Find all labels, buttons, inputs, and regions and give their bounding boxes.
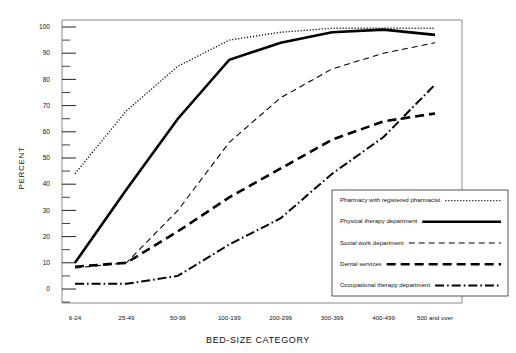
x-tick-label: 300-399 [321,314,344,321]
x-tick-label: 6-24 [69,314,82,321]
x-tick-label: 100-199 [218,314,241,321]
y-tick-label: 10 [43,259,51,266]
legend-label-1: Pharmacy with registered pharmacist [340,196,441,203]
y-tick-label: 90 [43,49,51,56]
chart-legend: Pharmacy with registered pharmacistPhysi… [332,190,508,296]
y-tick-label: 20 [43,233,51,240]
legend-label-4: Dental services [340,260,382,267]
legend-label-2: Physical therapy department [340,217,418,224]
x-tick-label: 50-99 [170,314,186,321]
line-chart-canvas: 0102030405060708090100 6-2425-4950-99100… [0,0,516,353]
y-tick-label: 80 [43,76,51,83]
y-tick-label: 70 [43,102,51,109]
x-tick-label: 500 and over [417,314,453,321]
x-axis-tick-labels: 6-2425-4950-99100-199200-299300-399400-4… [69,314,453,321]
legend-label-3: Social work department [340,239,404,246]
y-axis-tick-labels: 0102030405060708090100 [39,23,50,292]
chart-figure: 0102030405060708090100 6-2425-4950-99100… [0,0,516,353]
y-tick-label: 30 [43,207,51,214]
x-axis-title: BED-SIZE CATEGORY [206,335,310,345]
y-axis-title: PERCENT [17,146,26,189]
y-tick-label: 100 [39,23,50,30]
legend-label-5: Occupational therapy department [340,281,430,288]
y-tick-label: 0 [46,285,50,292]
x-tick-label: 400-499 [372,314,395,321]
y-tick-label: 40 [43,180,51,187]
x-tick-label: 25-49 [119,314,135,321]
y-tick-label: 60 [43,128,51,135]
y-axis-ticks [62,27,76,302]
x-tick-label: 200-299 [269,314,292,321]
y-tick-label: 50 [43,154,51,161]
